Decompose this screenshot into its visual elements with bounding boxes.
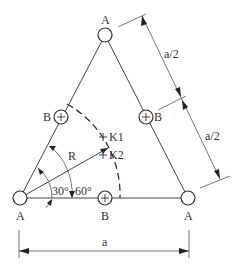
node-a-bottom-right	[181, 191, 195, 205]
label-b-bottom: B	[101, 209, 109, 223]
k2-label: K2	[109, 148, 124, 162]
angle-arrow-30-bottom	[47, 199, 52, 206]
dim-label-upper: a/2	[164, 47, 179, 61]
label-a-bottom-left: A	[16, 209, 25, 223]
angle-label-30: 30°	[52, 184, 69, 198]
label-b-right: B	[154, 110, 162, 124]
angle-label-60: 60°	[75, 184, 92, 198]
dim-label-lower: a/2	[205, 129, 220, 143]
label-a-top: A	[101, 13, 110, 27]
angle-arrow-30-top	[38, 168, 44, 175]
dim-label-base: a	[102, 235, 108, 249]
node-a-bottom-left	[13, 191, 27, 205]
node-b-left	[54, 110, 68, 124]
k1-label: K1	[109, 130, 124, 144]
node-b-right	[139, 110, 153, 124]
label-a-bottom-right: A	[184, 209, 193, 223]
node-b-bottom	[98, 191, 112, 205]
side-dimension	[118, 14, 230, 188]
radius-arrowhead	[100, 148, 108, 154]
node-a-top	[98, 28, 112, 42]
triangle-diagram: K1 K2 R 30° 60° A A A B B B	[0, 0, 237, 266]
radius-label: R	[68, 149, 76, 163]
label-b-left: B	[43, 110, 51, 124]
